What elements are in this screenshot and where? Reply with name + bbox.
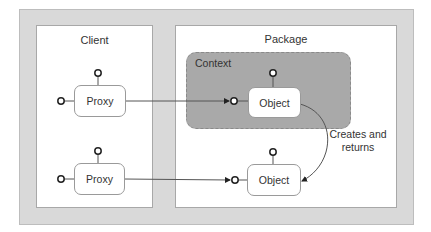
object-node-in-context: Object bbox=[248, 87, 301, 118]
client-panel-title: Client bbox=[37, 34, 152, 46]
edge-label-line-2: returns bbox=[326, 141, 390, 154]
proxy-node: Proxy bbox=[74, 85, 126, 117]
package-panel-title: Package bbox=[176, 33, 396, 45]
object-node: Object bbox=[247, 164, 301, 196]
proxy-node: Proxy bbox=[74, 163, 125, 195]
edge-label-line-1: Creates and bbox=[326, 128, 390, 141]
diagram-canvas: Client Package Context bbox=[0, 0, 431, 232]
creates-and-returns-label: Creates and returns bbox=[326, 128, 390, 154]
context-label: Context bbox=[195, 57, 231, 69]
